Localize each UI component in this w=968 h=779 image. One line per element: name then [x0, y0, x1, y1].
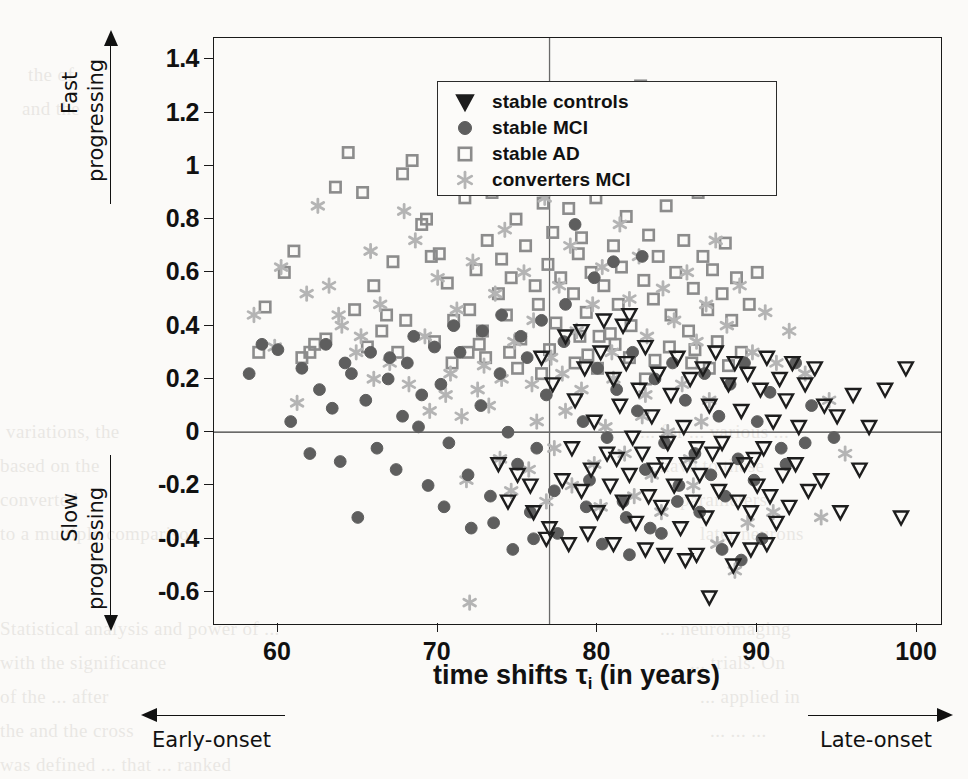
data-point [605, 328, 615, 338]
data-point [713, 410, 725, 422]
data-point [717, 289, 727, 299]
data-point [360, 394, 372, 406]
data-point [763, 490, 777, 503]
x-tick [596, 623, 597, 632]
data-point [520, 241, 530, 251]
data-point [658, 549, 672, 562]
data-point [565, 442, 579, 455]
data-point [496, 254, 506, 264]
data-point [401, 315, 411, 325]
data-point [536, 314, 548, 326]
data-point [352, 512, 364, 524]
data-point [639, 275, 649, 285]
data-point [555, 474, 569, 487]
data-point [474, 339, 484, 349]
data-point [494, 368, 506, 380]
data-point [716, 544, 728, 556]
data-point [644, 522, 656, 534]
legend-label: stable AD [492, 143, 580, 165]
y-tick [204, 325, 213, 326]
data-point [397, 410, 409, 422]
slow-progressing-label-1: Slow [58, 493, 82, 542]
data-point [581, 528, 595, 541]
data-point [564, 239, 576, 253]
data-point [775, 442, 787, 454]
legend-label: converters MCI [492, 169, 631, 191]
y-tick [204, 378, 213, 379]
data-point [357, 187, 367, 197]
x-tick [756, 623, 757, 632]
data-point [650, 355, 660, 365]
data-point [776, 469, 790, 482]
data-point [734, 279, 746, 293]
x-tick [277, 623, 278, 632]
circle-marker [438, 117, 492, 139]
data-point [472, 383, 484, 397]
late-onset-arrow-head [937, 708, 953, 722]
data-point [285, 416, 297, 428]
data-point [707, 265, 717, 275]
data-point [530, 281, 540, 291]
data-point [613, 400, 627, 413]
data-point [635, 448, 649, 461]
data-point [454, 346, 466, 358]
data-point [548, 441, 560, 455]
data-point [656, 528, 668, 540]
data-point [629, 517, 643, 530]
fast-progressing-label-2: progressing [84, 59, 108, 182]
data-point [638, 544, 652, 557]
data-point [564, 203, 574, 213]
data-point [540, 389, 552, 401]
data-point [465, 522, 477, 534]
data-point [291, 396, 303, 410]
data-point [409, 234, 421, 248]
data-point [467, 255, 479, 269]
data-point [725, 533, 739, 546]
data-point [457, 95, 473, 109]
data-point [671, 267, 681, 277]
data-point [576, 233, 586, 243]
legend-item-converters-mci: converters MCI [438, 166, 776, 193]
data-point [744, 544, 758, 557]
data-point [679, 235, 689, 245]
data-point [626, 432, 640, 445]
data-point [256, 338, 268, 350]
data-point [543, 259, 553, 269]
data-point [779, 394, 793, 407]
data-point [744, 299, 754, 309]
data-point [540, 495, 552, 509]
data-point [499, 223, 511, 237]
legend-item-stable-mci: stable MCI [438, 114, 776, 141]
data-point [608, 256, 620, 268]
x-axis-title-symbol: τ [576, 660, 588, 690]
slow-progressing-annotation-line1: Slow [58, 470, 82, 542]
slow-progressing-arrow-head [104, 615, 118, 631]
data-point [442, 278, 452, 288]
data-point [661, 201, 671, 211]
data-point [766, 416, 780, 429]
data-point [771, 356, 783, 370]
data-point [422, 480, 434, 492]
data-point [769, 517, 783, 530]
y-tick [204, 591, 213, 592]
y-tick-label: -0.2 [158, 470, 199, 499]
data-point [894, 512, 908, 525]
data-point [533, 299, 543, 309]
y-tick-label: 0.4 [166, 310, 199, 339]
data-point [438, 501, 450, 513]
y-tick-label: -0.4 [158, 523, 199, 552]
y-tick [204, 165, 213, 166]
data-point [312, 199, 324, 213]
data-point [523, 480, 537, 493]
data-point [424, 404, 436, 418]
y-tick [204, 271, 213, 272]
data-point [596, 260, 608, 274]
data-point [371, 442, 383, 454]
y-tick-label: 1 [186, 150, 199, 179]
data-point [531, 442, 543, 454]
data-point [382, 373, 394, 385]
data-point [645, 410, 659, 423]
data-point [384, 352, 396, 364]
data-point [806, 400, 818, 412]
data-point [381, 310, 391, 320]
